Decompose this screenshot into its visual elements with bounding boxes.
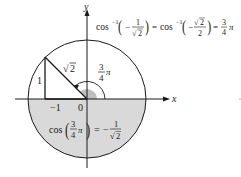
top-eq-frac1-sqrt: √ (132, 29, 137, 38)
tick-label-zero: 0 (78, 102, 83, 113)
top-eq-cos-2: cos (160, 22, 173, 32)
bottom-eq-lparen: ( (65, 120, 69, 141)
bottom-eq-rhs-den: 2 (116, 131, 120, 141)
bottom-eq-rhs-num: 1 (114, 119, 118, 129)
top-eq-frac1-den: 2 (138, 29, 142, 38)
bottom-eq-rparen: ) (86, 120, 90, 141)
angle-pi: π (106, 67, 111, 77)
top-eq-result-den: 4 (222, 28, 226, 37)
top-eq-frac1-num: 1 (136, 18, 140, 27)
angle-denominator: 4 (99, 73, 104, 83)
top-eq-cos-1: cos (96, 22, 109, 32)
bottom-eq-arg-num: 3 (71, 119, 75, 129)
top-equation: cos −1 ( − 1 √ 2 ) = cos −1 ( − √ 2 2 ) … (96, 17, 234, 38)
top-eq-frac2-sqrt: √ (194, 18, 199, 27)
top-eq-lparen-1: ( (118, 17, 122, 37)
stray-dot (239, 98, 240, 99)
bottom-eq-cos: cos (49, 124, 62, 135)
hypotenuse-radicand: 2 (70, 63, 75, 74)
top-eq-lparen-2: ( (182, 17, 186, 37)
bottom-eq-minus: − (103, 124, 109, 135)
top-eq-minus-1: − (125, 22, 130, 32)
unit-circle-diagram: y x −1 0 1 √ 2 3 4 π cos −1 ( − 1 √ 2 ) … (0, 0, 241, 177)
top-eq-rparen-2: ) (207, 17, 211, 37)
top-eq-equals-2: = (213, 22, 218, 32)
angle-numerator: 3 (99, 62, 104, 72)
tick-label-neg-one: −1 (50, 102, 61, 113)
top-eq-result-num: 3 (222, 18, 226, 27)
top-eq-frac2-num: 2 (200, 18, 204, 27)
angle-label: 3 4 π (98, 62, 111, 83)
top-eq-result-pi: π (229, 22, 234, 32)
top-eq-minus-2: − (188, 22, 193, 32)
top-eq-frac2-den: 2 (198, 29, 202, 38)
bottom-eq-equals: = (94, 124, 100, 135)
hypotenuse-label: √ 2 (63, 63, 76, 74)
top-eq-rparen-1: ) (145, 17, 149, 37)
bottom-eq-rhs-sqrt: √ (110, 131, 115, 141)
y-axis-label: y (83, 1, 89, 12)
sqrt-symbol: √ (63, 63, 69, 74)
x-axis-arrow-icon (163, 97, 170, 102)
vertical-side-label: 1 (37, 75, 42, 86)
top-eq-equals-1: = (152, 22, 157, 32)
x-axis-label: x (171, 93, 177, 104)
bottom-eq-pi: π (78, 125, 83, 135)
